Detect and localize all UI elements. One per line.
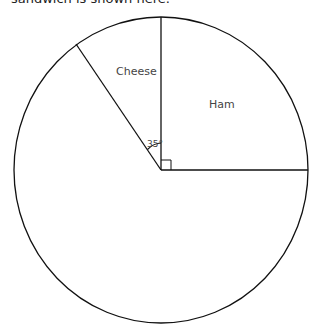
right-angle-marker [161, 160, 171, 170]
cheese-label: Cheese [116, 65, 157, 78]
radius-cheese [76, 44, 161, 170]
pie-chart: 35° Cheese Ham [0, 0, 321, 335]
ham-label: Ham [209, 98, 235, 111]
angle-label: 35° [147, 139, 163, 149]
